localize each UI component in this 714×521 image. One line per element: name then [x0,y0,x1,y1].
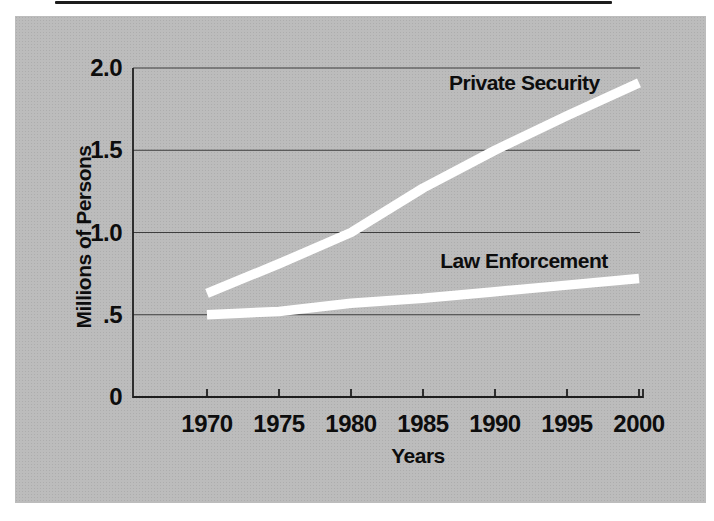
x-tick-label: 1980 [319,412,383,436]
x-tick-label: 2000 [607,412,671,436]
y-tick-label: 1.5 [72,138,122,162]
y-tick-label: 0 [72,385,122,409]
series-label-law-enforcement: Law Enforcement [439,249,609,273]
x-tick-label: 1970 [175,412,239,436]
y-tick-label: 1.0 [72,221,122,245]
y-tick-label: 2.0 [72,56,122,80]
series-line-law-enforcement [207,279,639,315]
x-tick-label: 1995 [535,412,599,436]
figure-page: Millions of Persons Years Private Securi… [0,0,714,521]
x-tick-label: 1985 [391,412,455,436]
y-tick-label: .5 [72,303,122,327]
x-tick-label: 1990 [463,412,527,436]
series-label-private-security: Private Security [449,71,599,95]
x-tick-label: 1975 [247,412,311,436]
x-axis-title: Years [368,444,468,468]
